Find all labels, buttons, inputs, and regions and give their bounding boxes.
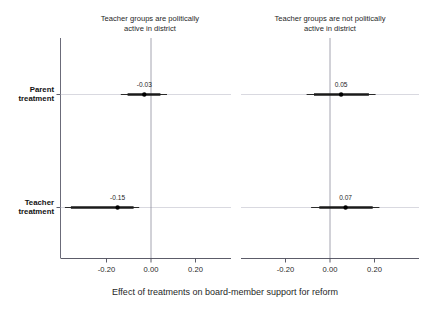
row-label-teacher-line2: treatment: [18, 207, 54, 216]
panel-right-title-line1: Teacher groups are not politically: [274, 14, 385, 23]
point-estimate-marker: [343, 205, 347, 209]
panel-left-xticklabel-000: 0.00: [144, 265, 159, 274]
point-estimate-label: -0.03: [137, 81, 152, 88]
panel-right-xticklabel-neg020: -0.20: [277, 265, 294, 274]
panel-left-title-line2: active in district: [124, 24, 177, 33]
x-axis-title: Effect of treatments on board-member sup…: [112, 287, 338, 297]
plot-background: [0, 0, 425, 309]
coefficient-plot-figure: Teacher groups are politically active in…: [0, 0, 425, 309]
point-estimate-marker: [142, 92, 146, 96]
point-estimate-label: 0.07: [339, 194, 352, 201]
point-estimate-marker: [339, 92, 343, 96]
point-estimate-marker: [115, 205, 119, 209]
row-label-parent-line2: treatment: [18, 94, 54, 103]
point-estimate-label: 0.05: [335, 81, 348, 88]
row-label-teacher-line1: Teacher: [25, 198, 54, 207]
forest-plot-svg: Teacher groups are politically active in…: [0, 0, 425, 309]
row-label-parent-line1: Parent: [30, 85, 55, 94]
panel-right-xticklabel-000: 0.00: [323, 265, 338, 274]
panel-left-xticklabel-neg020: -0.20: [98, 265, 115, 274]
point-estimate-label: -0.15: [110, 194, 125, 201]
panel-right-title-line2: active in district: [304, 24, 357, 33]
panel-left-xticklabel-020: 0.20: [188, 265, 203, 274]
panel-left-title-line1: Teacher groups are politically: [101, 14, 200, 23]
panel-right-xticklabel-020: 0.20: [367, 265, 382, 274]
